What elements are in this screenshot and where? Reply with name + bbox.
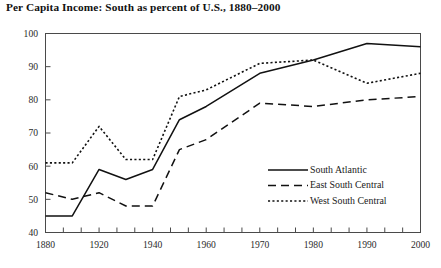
y-axis-tick-label: 100: [24, 28, 39, 39]
chart-plot-area: 100908070605040 188019201940196019701980…: [0, 0, 441, 268]
x-axis-tick-label: 1980: [304, 239, 323, 250]
legend-label: West South Central: [310, 195, 387, 206]
y-axis-tick-label: 90: [28, 61, 38, 72]
y-axis-tick-labels: 100908070605040: [24, 28, 39, 238]
figure: Per Capita Income: South as percent of U…: [0, 0, 441, 268]
x-axis-tick-label: 1940: [143, 239, 162, 250]
y-axis-tick-label: 70: [28, 127, 38, 138]
y-axis-tick-label: 40: [28, 227, 38, 238]
x-axis-tick-label: 1880: [36, 239, 55, 250]
line-chart-svg: 100908070605040 188019201940196019701980…: [0, 0, 441, 268]
x-axis-tick-label: 1990: [357, 239, 376, 250]
y-axis-tick-marks: [46, 67, 51, 200]
x-axis-tick-label: 1920: [89, 239, 108, 250]
y-axis-tick-label: 80: [28, 94, 38, 105]
x-axis-tick-label: 1970: [250, 239, 269, 250]
x-axis-tick-marks: [46, 228, 421, 233]
x-axis-tick-labels: 18801920194019601970198019902000: [36, 239, 430, 250]
series-line-west-south-central: [46, 60, 421, 163]
legend-label: South Atlantic: [310, 164, 367, 175]
legend-label: East South Central: [310, 179, 384, 190]
y-axis-tick-label: 50: [28, 194, 38, 205]
chart-legend: South AtlanticEast South CentralWest Sou…: [268, 164, 387, 206]
x-axis-tick-label: 2000: [411, 239, 430, 250]
x-axis-tick-label: 1960: [197, 239, 216, 250]
y-axis-tick-label: 60: [28, 161, 38, 172]
